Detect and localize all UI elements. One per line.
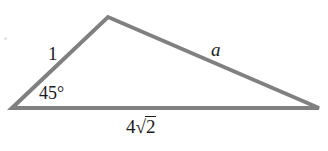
- triangle-diagram: [0, 0, 328, 151]
- triangle-figure: 1 a 45° 4√2: [0, 0, 328, 151]
- base-coefficient: 4: [126, 116, 136, 137]
- stray-speck-artifact: [4, 37, 7, 40]
- radical-group: √2: [136, 116, 157, 136]
- base-label-4root2: 4√2: [126, 116, 156, 136]
- side-label-a: a: [211, 40, 221, 59]
- radicand: 2: [145, 116, 157, 136]
- side-label-1: 1: [48, 44, 58, 63]
- angle-label-45: 45°: [39, 84, 64, 102]
